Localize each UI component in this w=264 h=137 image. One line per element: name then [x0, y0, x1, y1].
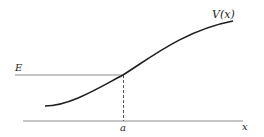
axis-label: x [242, 121, 248, 132]
potential-curve [45, 21, 233, 106]
potential-diagram: V(x) E a x [0, 0, 264, 137]
energy-label: E [14, 62, 23, 73]
turning-point-label: a [120, 122, 126, 133]
curve-label: V(x) [212, 8, 235, 21]
